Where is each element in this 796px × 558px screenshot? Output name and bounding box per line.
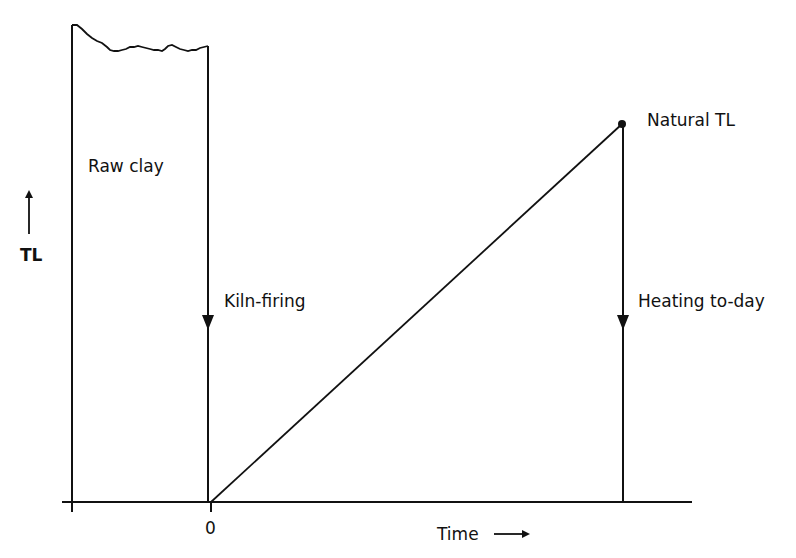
tl-accumulation-line	[211, 124, 622, 502]
heating-today-label: Heating to-day	[638, 293, 765, 310]
kiln-firing-label: Kiln-firing	[224, 293, 306, 310]
natural-tl-label: Natural TL	[647, 112, 735, 129]
y-axis-arrowhead	[25, 190, 33, 198]
tl-diagram	[0, 0, 796, 558]
time-arrowhead	[522, 530, 530, 538]
heating-today-arrowhead	[617, 315, 629, 330]
x-axis-label: Time	[437, 526, 479, 543]
raw-clay-label: Raw clay	[88, 158, 164, 175]
x-axis-zero-label: 0	[205, 520, 216, 537]
raw-clay-plateau-curve	[72, 25, 208, 51]
kiln-firing-arrowhead	[202, 315, 214, 330]
y-axis-label: TL	[20, 247, 42, 264]
